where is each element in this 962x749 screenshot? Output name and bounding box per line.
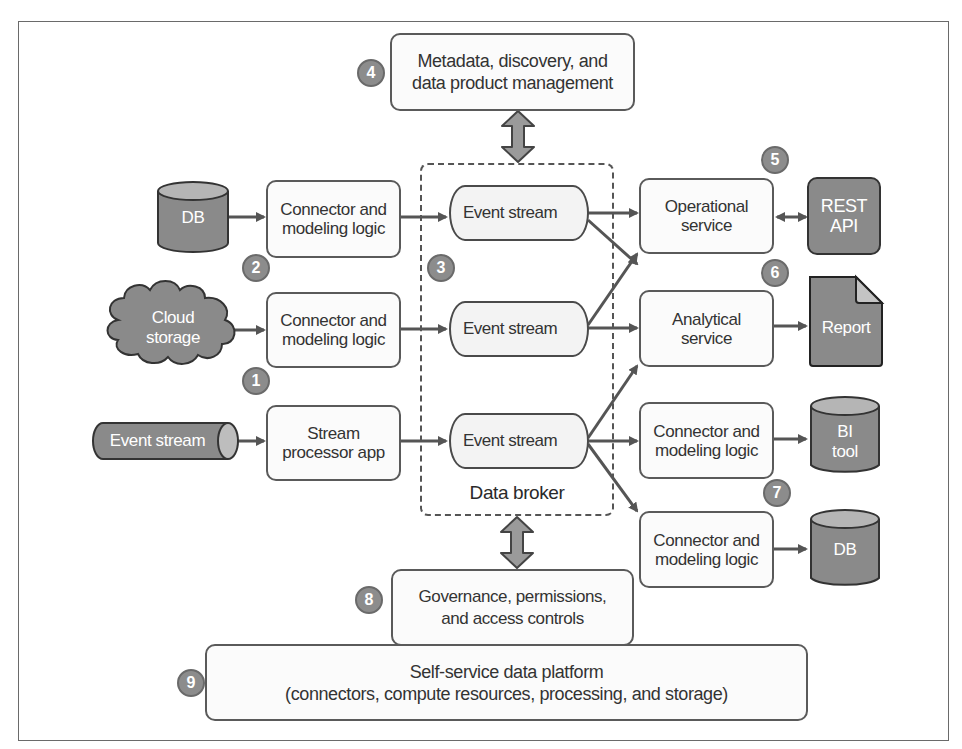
badge-7: 7: [763, 479, 791, 507]
broker-event-stream-1: Event stream: [449, 185, 589, 241]
bi-tool-line-1: BI: [837, 422, 852, 442]
governance-line-1: Governance, permissions,: [419, 586, 607, 608]
broker-event-stream-2: Event stream: [449, 301, 589, 357]
metadata-line-1: Metadata, discovery, and: [417, 50, 607, 72]
cloud-storage-label: Cloud storage: [118, 303, 228, 353]
badge-2: 2: [242, 254, 270, 282]
consumer-connector-bi: Connector and modeling logic: [639, 402, 774, 479]
badge-8: 8: [355, 586, 383, 614]
broker-stream-3-text: Event stream: [463, 431, 557, 451]
governance-box: Governance, permissions, and access cont…: [391, 569, 634, 646]
metadata-box: Metadata, discovery, and data product ma…: [390, 33, 635, 111]
badge-1: 1: [242, 367, 270, 395]
platform-line-1: Self-service data platform: [410, 661, 604, 683]
badge-4: 4: [357, 59, 385, 87]
double-arrow-governance: [501, 517, 533, 568]
badge-5: 5: [761, 146, 789, 174]
consumer-1-line-1: Operational: [665, 197, 749, 216]
report-label: Report: [810, 306, 882, 350]
producer-1-line-1: Connector and: [280, 200, 386, 219]
data-broker-label: Data broker: [420, 482, 614, 504]
metadata-line-2: data product management: [412, 72, 613, 94]
badge-6: 6: [761, 259, 789, 287]
broker-event-stream-3: Event stream: [449, 413, 589, 469]
producer-connector-1: Connector and modeling logic: [266, 180, 401, 258]
producer-connector-2: Connector and modeling logic: [266, 292, 401, 368]
consumer-3-line-1: Connector and: [653, 422, 759, 441]
consumer-connector-db: Connector and modeling logic: [639, 511, 774, 588]
double-arrow-metadata: [502, 111, 534, 162]
db-sink-text: DB: [834, 540, 857, 560]
event-stream-source-label: Event stream: [95, 423, 220, 459]
producer-2-line-2: modeling logic: [282, 330, 385, 349]
consumer-2-line-1: Analytical: [672, 310, 741, 329]
event-stream-source-text: Event stream: [110, 431, 205, 451]
report-text: Report: [822, 318, 871, 338]
operational-service: Operational service: [639, 178, 774, 254]
consumer-4-line-2: modeling logic: [655, 550, 758, 569]
producer-3-line-2: processor app: [282, 443, 385, 462]
self-service-platform-box: Self-service data platform (connectors, …: [205, 644, 808, 721]
rest-api-label: REST API: [808, 178, 880, 254]
consumer-3-line-2: modeling logic: [655, 441, 758, 460]
db-sink-label: DB: [811, 530, 879, 570]
analytical-service: Analytical service: [639, 290, 774, 367]
badge-9: 9: [177, 669, 205, 697]
db-source-text: DB: [182, 208, 205, 228]
stream-processor-app: Stream processor app: [266, 405, 401, 481]
badge-3: 3: [427, 254, 455, 282]
producer-2-line-1: Connector and: [280, 311, 386, 330]
producer-1-line-2: modeling logic: [282, 219, 385, 238]
broker-stream-1-text: Event stream: [463, 203, 557, 223]
rest-api-line-2: API: [830, 216, 858, 236]
db-source-label: DB: [158, 200, 228, 236]
consumer-1-line-2: service: [681, 216, 732, 235]
bi-tool-line-2: tool: [832, 442, 858, 462]
rest-api-line-1: REST: [821, 196, 867, 216]
producer-3-line-1: Stream: [307, 424, 359, 443]
governance-line-2: and access controls: [441, 608, 584, 630]
consumer-4-line-1: Connector and: [653, 531, 759, 550]
cloud-storage-line-1: Cloud: [152, 308, 194, 328]
platform-line-2: (connectors, compute resources, processi…: [285, 683, 728, 705]
cloud-storage-line-2: storage: [146, 328, 200, 348]
bi-tool-label: BI tool: [811, 414, 879, 470]
consumer-2-line-2: service: [681, 329, 732, 348]
broker-stream-2-text: Event stream: [463, 319, 557, 339]
